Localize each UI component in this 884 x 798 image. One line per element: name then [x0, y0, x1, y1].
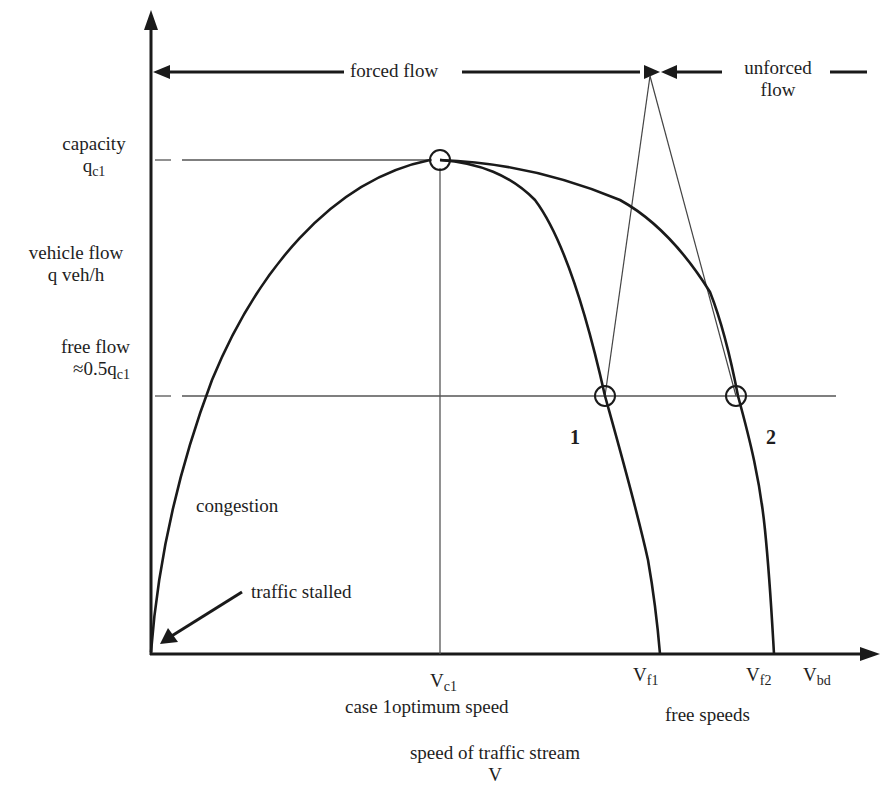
congestion-branch-curve [151, 160, 430, 652]
y-axis-arrowhead-icon [144, 10, 158, 30]
free-speeds-label: free speeds [665, 704, 750, 726]
y-axis-title-line2: q veh/h [8, 264, 144, 286]
vf1-tick-label: Vf1 [633, 664, 658, 692]
vf2-subscript: f2 [760, 673, 772, 688]
arrowhead-icon [160, 628, 178, 644]
free-flow-text: free flow [20, 336, 130, 358]
regime-divider-lines [605, 76, 736, 396]
v-symbol: V [633, 664, 647, 685]
capacity-label: capacity qc1 [44, 133, 144, 183]
curve-2-label: 2 [766, 426, 776, 448]
x-axis-arrowhead-icon [860, 647, 880, 661]
curve-1-label: 1 [570, 426, 580, 448]
q-symbol: q [83, 155, 93, 176]
x-axis [150, 647, 880, 661]
free-flow-subscript: c1 [117, 367, 130, 382]
v-symbol: V [803, 664, 817, 685]
free-flow-label: free flow ≈0.5qc1 [20, 336, 130, 386]
free-flow-approx: ≈0.5q [73, 358, 117, 379]
x-axis-title: speed of traffic stream V [370, 742, 620, 786]
vc1-tick-label: Vc1 [430, 670, 457, 698]
congestion-label: congestion [196, 495, 278, 517]
capacity-symbol: qc1 [44, 155, 144, 183]
unforced-flow-line2: flow [728, 79, 828, 101]
q-subscript: c1 [92, 164, 105, 179]
optimum-speed-label: case 1optimum speed [345, 696, 509, 718]
arrowhead-left-icon [153, 65, 170, 79]
traffic-stalled-label: traffic stalled [251, 581, 351, 603]
traffic-stalled-arrow [160, 592, 242, 644]
capacity-text: capacity [44, 133, 144, 155]
y-axis-title: vehicle flow q veh/h [8, 242, 144, 286]
x-axis-title-line1: speed of traffic stream [370, 742, 620, 764]
curve-1 [440, 160, 660, 654]
x-axis-title-line2: V [370, 764, 620, 786]
arrowhead-left-icon [661, 65, 677, 79]
unforced-flow-line1: unforced [728, 57, 828, 79]
vbd-subscript: bd [817, 673, 831, 688]
vbd-tick-label: Vbd [803, 664, 831, 692]
vc1-subscript: c1 [444, 679, 457, 694]
vf2-tick-label: Vf2 [746, 664, 771, 692]
y-axis [144, 10, 158, 655]
vf1-subscript: f1 [647, 673, 659, 688]
free-flow-value: ≈0.5qc1 [20, 358, 130, 386]
arrowhead-right-icon [644, 65, 660, 79]
unforced-flow-label: unforced flow [728, 57, 828, 101]
y-axis-title-line1: vehicle flow [8, 242, 144, 264]
v-symbol: V [746, 664, 760, 685]
v-symbol: V [430, 670, 444, 691]
forced-flow-label: forced flow [350, 60, 438, 82]
